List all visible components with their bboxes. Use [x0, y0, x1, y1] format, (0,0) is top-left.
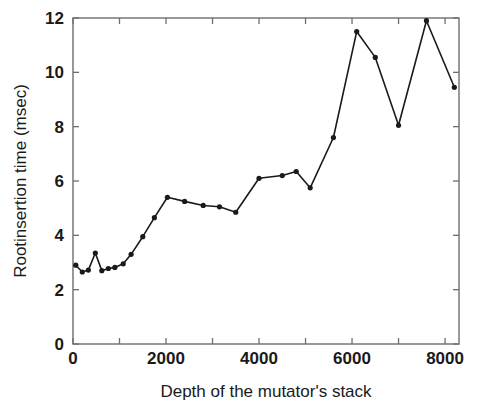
data-point — [452, 85, 457, 90]
data-point — [106, 266, 111, 271]
data-point — [294, 169, 299, 174]
y-axis-title: Rootinsertion time (msec) — [11, 84, 30, 278]
data-point — [140, 234, 145, 239]
data-point — [182, 199, 187, 204]
data-point — [331, 135, 336, 140]
data-point — [396, 123, 401, 128]
data-point — [99, 268, 104, 273]
data-point — [233, 210, 238, 215]
data-point — [121, 261, 126, 266]
x-tick-label: 0 — [68, 349, 77, 368]
y-tick-label: 4 — [55, 226, 65, 245]
data-point — [217, 204, 222, 209]
chart-figure: 02000400060008000 024681012 Depth of the… — [0, 0, 486, 414]
chart-canvas: 02000400060008000 024681012 Depth of the… — [0, 0, 486, 414]
data-point — [93, 250, 98, 255]
data-point — [73, 263, 78, 268]
x-axis-title: Depth of the mutator's stack — [160, 382, 372, 401]
data-point — [201, 203, 206, 208]
data-point — [80, 269, 85, 274]
x-tick-label: 6000 — [333, 349, 371, 368]
data-point — [256, 176, 261, 181]
data-point — [280, 173, 285, 178]
y-axis-tick-labels: 024681012 — [45, 9, 64, 354]
data-series — [73, 18, 457, 274]
data-point — [354, 29, 359, 34]
data-point — [112, 265, 117, 270]
y-tick-label: 0 — [55, 335, 64, 354]
x-tick-label: 8000 — [426, 349, 464, 368]
data-point — [86, 268, 91, 273]
x-tick-label: 2000 — [147, 349, 185, 368]
y-tick-label: 10 — [45, 63, 64, 82]
x-axis-ticks — [73, 18, 445, 344]
data-point — [424, 18, 429, 23]
data-point — [152, 215, 157, 220]
data-point — [373, 55, 378, 60]
y-tick-label: 8 — [55, 118, 64, 137]
x-tick-label: 4000 — [240, 349, 278, 368]
y-axis-ticks — [73, 18, 459, 344]
data-point — [165, 195, 170, 200]
x-axis-tick-labels: 02000400060008000 — [68, 349, 464, 368]
y-tick-label: 12 — [45, 9, 64, 28]
y-tick-label: 6 — [55, 172, 64, 191]
plot-frame — [73, 18, 459, 344]
y-tick-label: 2 — [55, 281, 64, 300]
data-point — [129, 252, 134, 257]
data-point — [308, 185, 313, 190]
data-point-markers — [73, 18, 457, 274]
